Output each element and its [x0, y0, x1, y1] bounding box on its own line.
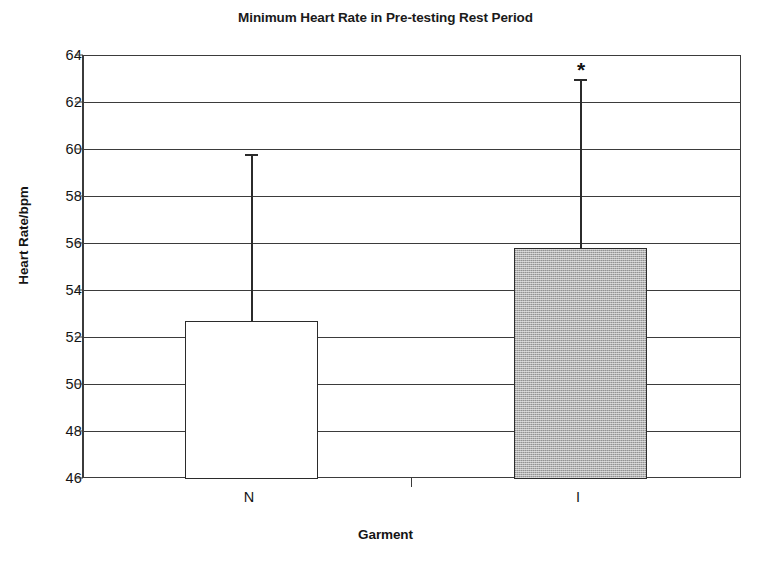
y-axis-title: Heart Rate/bpm — [16, 146, 31, 326]
errorbar-stem-garment-i — [580, 79, 582, 248]
chart-figure: Minimum Heart Rate in Pre-testing Rest P… — [0, 0, 771, 561]
gridline-60 — [84, 149, 740, 150]
x-axis-title: Garment — [0, 527, 771, 542]
x-tick-label-n: N — [189, 489, 309, 505]
errorbar-stem-garment-n — [251, 154, 253, 321]
x-axis-center-tick — [411, 478, 412, 487]
chart-title: Minimum Heart Rate in Pre-testing Rest P… — [0, 10, 771, 25]
bar-garment-i[interactable] — [514, 248, 647, 479]
errorbar-cap-garment-n — [245, 154, 258, 156]
gridline-56 — [84, 243, 740, 244]
significance-asterisk-garment-i: * — [577, 59, 585, 80]
bar-garment-n[interactable] — [185, 321, 318, 479]
x-tick-label-i: I — [518, 489, 638, 505]
gridline-62 — [84, 102, 740, 103]
gridline-58 — [84, 196, 740, 197]
plot-area: * — [82, 55, 741, 478]
